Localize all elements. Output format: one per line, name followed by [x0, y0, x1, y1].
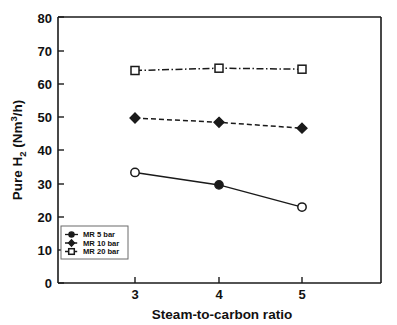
series-mr-10-bar [130, 113, 307, 133]
y-tick-label-60: 60 [38, 77, 52, 92]
series-mr-5-bar [131, 168, 306, 211]
y-axis-title-pre: Pure H [10, 157, 25, 201]
plot-area: 0 10 20 30 40 50 60 70 80 3 4 5 Steam-to… [0, 0, 397, 325]
legend-marker-circle-icon [69, 232, 74, 237]
x-tick-label-5: 5 [298, 287, 305, 302]
y-tick-label-20: 20 [38, 210, 52, 225]
series-mr-20-bar [131, 64, 306, 74]
chart-legend: MR 5 bar MR 10 bar MR 20 bar [61, 226, 128, 259]
y-tick-label-50: 50 [38, 110, 52, 125]
data-point-mr20-sc4 [215, 64, 223, 72]
data-point-mr5-sc4 [215, 181, 223, 189]
legend-label-mr-20-bar: MR 20 bar [83, 247, 119, 256]
y-axis-title-post: /h) [10, 100, 25, 117]
legend-item-mr-20-bar[interactable]: MR 20 bar [65, 247, 119, 256]
y-tick-label-0: 0 [45, 276, 52, 291]
y-axis-title: Pure H2 (Nm3/h) [8, 100, 28, 201]
data-point-mr10-sc4 [214, 117, 224, 127]
y-tick-label-70: 70 [38, 44, 52, 59]
data-point-mr20-sc3 [131, 67, 139, 75]
chart-figure: 0 10 20 30 40 50 60 70 80 3 4 5 Steam-to… [0, 0, 397, 325]
y-tick-label-40: 40 [38, 143, 52, 158]
y-axis-title-mid: (Nm [10, 121, 25, 151]
y-tick-label-10: 10 [38, 243, 52, 258]
x-tick-label-3: 3 [131, 287, 138, 302]
x-axis-title: Steam-to-carbon ratio [152, 307, 292, 322]
legend-marker-square-icon [69, 249, 75, 255]
data-point-mr5-sc5 [298, 203, 306, 211]
svg-text:Pure H2 (Nm3/h): Pure H2 (Nm3/h) [8, 100, 28, 201]
x-tick-label-4: 4 [215, 287, 223, 302]
data-point-mr5-sc3 [131, 168, 139, 176]
data-point-mr10-sc5 [297, 123, 307, 133]
data-point-mr10-sc3 [130, 113, 140, 123]
y-tick-label-80: 80 [38, 11, 52, 26]
x-tick-marks [135, 277, 302, 283]
series-mr-5-bar-line [135, 172, 302, 207]
y-tick-label-30: 30 [38, 177, 52, 192]
data-point-mr20-sc5 [298, 65, 306, 73]
